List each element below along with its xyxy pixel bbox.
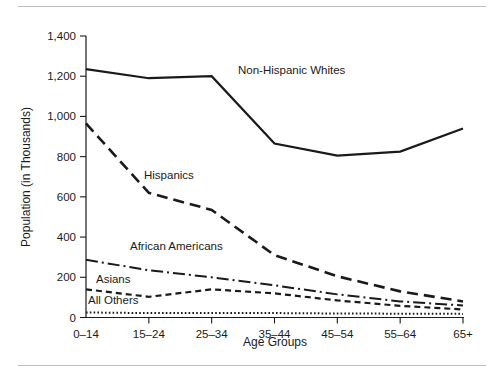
series-label-hispanics: Hispanics: [144, 169, 194, 181]
series-line-african-americans: [86, 260, 463, 306]
series-label-non-hispanic-whites: Non-Hispanic Whites: [238, 64, 346, 76]
x-tick-label: 65+: [453, 328, 473, 340]
series-lines: [86, 69, 463, 314]
series-label-all-others: All Others: [88, 294, 139, 306]
y-axis-ticks: [80, 36, 86, 318]
figure-container: 02004006008001,0001,2001,400 0–1415–2425…: [0, 0, 502, 373]
series-line-asians: [86, 289, 463, 309]
line-chart: 02004006008001,0001,2001,400 0–1415–2425…: [0, 0, 502, 373]
x-axis-ticks: [149, 318, 463, 324]
x-tick-label: 0–14: [73, 328, 99, 340]
y-tick-label: 800: [57, 151, 76, 163]
y-tick-label: 0: [70, 312, 76, 324]
y-tick-label: 600: [57, 191, 76, 203]
y-axis-title: Population (in Thousands): [19, 107, 33, 247]
x-tick-label: 55–64: [384, 328, 417, 340]
y-tick-label: 200: [57, 271, 76, 283]
series-line-non-hispanic-whites: [86, 69, 463, 155]
series-label-asians: Asians: [96, 273, 131, 285]
series-line-all-others: [86, 312, 463, 313]
y-tick-label: 1,200: [47, 70, 76, 82]
series-label-african-americans: African Americans: [130, 240, 223, 252]
x-axis-title: Age Groups: [243, 335, 307, 349]
x-tick-label: 45–54: [321, 328, 354, 340]
x-tick-label: 25–34: [196, 328, 229, 340]
y-tick-label: 1,400: [47, 30, 76, 42]
y-tick-label: 400: [57, 231, 76, 243]
y-tick-label: 1,000: [47, 110, 76, 122]
y-axis-tick-labels: 02004006008001,0001,2001,400: [47, 30, 76, 324]
x-tick-label: 15–24: [133, 328, 166, 340]
series-inline-labels: Non-Hispanic WhitesHispanicsAfrican Amer…: [88, 64, 346, 306]
